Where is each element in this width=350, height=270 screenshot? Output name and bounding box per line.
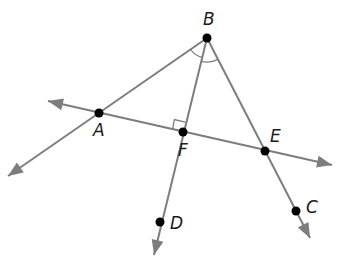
arrowhead-icon <box>48 98 64 110</box>
label-a: A <box>92 120 105 140</box>
point-f <box>179 128 188 137</box>
geometry-diagram: BAFEDC <box>0 0 350 270</box>
arrowhead-icon <box>316 156 332 168</box>
label-e: E <box>270 126 281 146</box>
label-d: D <box>170 213 183 233</box>
arrowhead-icon <box>298 222 310 238</box>
point-a <box>95 109 104 118</box>
point-d <box>156 218 165 227</box>
angle-arc-abf <box>191 50 203 58</box>
label-c: C <box>306 197 318 217</box>
point-c <box>292 207 301 216</box>
arrowhead-icon <box>8 163 24 176</box>
label-f: F <box>178 140 188 160</box>
angle-arc-fbc <box>201 59 218 62</box>
arrowhead-icon <box>152 239 164 255</box>
point-e <box>261 147 270 156</box>
label-b: B <box>203 9 215 29</box>
point-b <box>203 34 212 43</box>
